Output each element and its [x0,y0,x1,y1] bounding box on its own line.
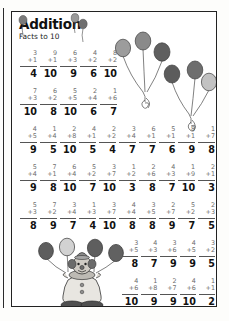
addition-problem: 3+69 [160,240,179,272]
answer-value: 10 [20,105,37,117]
addend-bottom: +1 [40,171,57,181]
answer-value: 9 [20,181,37,193]
answer-value: 6 [159,143,176,155]
answer-value: 4 [20,67,37,79]
addend-bottom: +4 [60,209,77,219]
addend-bottom: +7 [99,171,116,181]
answer-value: 5 [198,219,215,231]
addition-problem: 5+38 [20,202,40,234]
answer-value: 8 [122,257,138,269]
addend-bottom: +5 [60,95,77,105]
addend-bottom: +1 [139,133,156,143]
addition-problem: 4+48 [119,202,139,234]
addend-bottom: +2 [100,57,117,67]
addition-problem: 1+67 [100,88,120,120]
problem-row-2: 7+3106+285+5102+461+67 [20,88,120,120]
answer-value: 9 [40,219,57,231]
addition-problem: 2+68 [139,164,159,196]
answer-value: 6 [80,67,97,79]
addition-problem: 8+210 [100,50,120,82]
addition-problem: 6+39 [60,50,80,82]
answer-value: 10 [99,181,116,193]
addition-problem: 4+610 [180,278,199,307]
addition-problem: 6+28 [40,88,60,120]
answer-value: 5 [40,143,57,155]
addend-bottom: +4 [80,95,97,105]
addend-bottom: +4 [40,133,57,143]
answer-value: 9 [60,67,77,79]
worksheet-page: Addition Facts to 10 [0,0,229,321]
addend-bottom: +5 [180,247,196,257]
answer-value: 7 [119,143,136,155]
problem-row-4: 5+497+186+4105+273+7101+232+684+371+9102… [20,164,217,196]
addend-bottom: +7 [160,285,176,295]
page-edge-line [3,8,4,308]
addend-bottom: +5 [20,133,37,143]
addend-bottom: +9 [178,171,195,181]
answer-value: 7 [100,105,117,117]
addition-problem: 5+16 [159,126,179,158]
addend-bottom: +2 [80,57,97,67]
addition-problem: 2+79 [159,202,179,234]
addition-problem: 6+17 [139,126,159,158]
addend-bottom: +5 [122,247,138,257]
addend-bottom: +3 [79,209,96,219]
addend-bottom: +1 [178,133,195,143]
addend-bottom: +3 [20,209,37,219]
addition-problem: 1+89 [141,278,160,307]
addition-problem: 1+23 [119,164,139,196]
answer-value: 10 [60,181,77,193]
problem-row-5: 5+387+293+471+343+7104+483+582+795+272+3… [20,202,217,234]
addition-problem: 1+78 [198,126,217,158]
addition-problem: 4+37 [159,164,179,196]
addend-bottom: +4 [60,171,77,181]
addend-bottom: +3 [198,209,215,219]
answer-value: 8 [40,105,57,117]
addition-problem: 4+37 [141,240,160,272]
title-balloons-icon [16,12,100,46]
addend-bottom: +3 [141,247,157,257]
answer-value: 6 [80,105,97,117]
addend-bottom: +7 [99,209,116,219]
addition-problem: 4+59 [180,240,199,272]
answer-value: 10 [40,67,57,79]
addition-problem: 4+59 [20,126,40,158]
answer-value: 5 [79,143,96,155]
answer-value: 5 [199,257,215,269]
addition-problem: 3+710 [99,164,119,196]
answer-value: 7 [141,257,157,269]
addition-problem: 7+310 [20,88,40,120]
answer-value: 10 [180,295,196,307]
answer-value: 9 [141,295,157,307]
answer-value: 9 [178,143,195,155]
answer-value: 8 [139,181,156,193]
addend-bottom: +2 [178,209,195,219]
answer-value: 9 [20,143,37,155]
answer-value: 9 [160,295,176,307]
answer-value: 10 [60,143,77,155]
clown-with-balloons-icon [34,240,130,307]
addend-bottom: +7 [198,133,215,143]
answer-value: 7 [139,143,156,155]
addend-bottom: +4 [119,209,136,219]
addend-bottom: +4 [20,171,37,181]
addend-bottom: +1 [20,57,37,67]
addition-problem: 9+110 [40,50,60,82]
addend-bottom: +2 [40,209,57,219]
addition-problem: 5+27 [178,202,198,234]
addition-problem: 1+45 [40,126,60,158]
answer-value: 10 [60,105,77,117]
addend-bottom: +6 [122,285,138,295]
problem-row-6: 3+584+373+694+593+25 [122,240,217,272]
addend-bottom: +6 [100,95,117,105]
addition-problem: 8+19 [178,126,198,158]
addend-bottom: +2 [99,133,116,143]
addend-bottom: +6 [160,247,176,257]
addition-problem: 1+910 [178,164,198,196]
addition-problem: 4+26 [80,50,100,82]
answer-value: 3 [119,181,136,193]
addition-problem: 3+58 [139,202,159,234]
addend-bottom: +4 [119,133,136,143]
addition-problem: 7+29 [40,202,60,234]
answer-value: 10 [122,295,138,307]
